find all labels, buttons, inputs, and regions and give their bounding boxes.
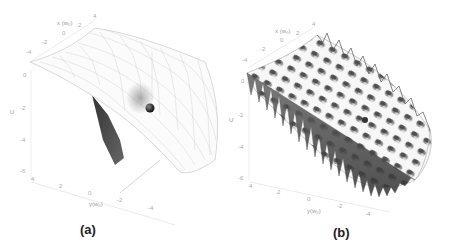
particle-ball-icon bbox=[146, 104, 155, 113]
x-axis-label: x (w₀) bbox=[57, 20, 73, 26]
u-tick: -2 bbox=[20, 105, 25, 111]
panel-caption-b: (b) bbox=[333, 226, 350, 239]
y-tick: -4 bbox=[365, 211, 370, 217]
particle-ball-icon bbox=[362, 117, 368, 123]
u-axis-label: U bbox=[229, 117, 233, 123]
u-axis-label: U bbox=[10, 109, 14, 115]
surface-plot-b bbox=[225, 0, 451, 249]
u-tick: -4 bbox=[238, 144, 243, 150]
y-tick: 0 bbox=[307, 196, 310, 202]
u-tick: -4 bbox=[20, 137, 25, 143]
u-tick: 0 bbox=[241, 78, 244, 84]
y-tick: -2 bbox=[117, 197, 122, 203]
x-tick: 2 bbox=[78, 22, 81, 28]
y-tick: 2 bbox=[277, 189, 280, 195]
u-tick: -6 bbox=[238, 175, 243, 181]
x-tick: -2 bbox=[42, 39, 47, 45]
y-tick: 4 bbox=[249, 183, 252, 189]
panel-a-smooth-potential: x (w₀) -4 -2 0 2 4 U 0 -2 -4 -6 4 2 0 -2… bbox=[0, 0, 225, 249]
y-axis-line bbox=[31, 182, 175, 225]
panel-caption-a: (a) bbox=[80, 223, 96, 236]
x-axis-label: x (w₀) bbox=[275, 28, 291, 34]
y-tick: -2 bbox=[337, 203, 342, 209]
x-tick: 0 bbox=[62, 30, 65, 36]
surface-plot-a bbox=[0, 0, 225, 249]
x-tick: -2 bbox=[260, 46, 265, 52]
x-tick: 0 bbox=[280, 37, 283, 43]
y-tick: -4 bbox=[148, 205, 153, 211]
u-tick: -6 bbox=[20, 168, 25, 174]
x-tick: 2 bbox=[296, 30, 299, 36]
panel-b-corrugated-potential: x (w₀) -4 -2 0 2 4 U 0 -2 -4 -6 4 2 0 -2… bbox=[225, 0, 450, 249]
y-axis-label: y(w₀) bbox=[89, 201, 103, 207]
y-tick: 0 bbox=[88, 190, 91, 196]
x-tick: -4 bbox=[242, 57, 247, 63]
x-tick: -4 bbox=[26, 49, 31, 55]
u-tick: -2 bbox=[238, 112, 243, 118]
x-tick: 4 bbox=[93, 13, 96, 19]
y-axis-label: y(w₀) bbox=[307, 208, 321, 214]
y-tick: 2 bbox=[59, 183, 62, 189]
u-tick: 0 bbox=[23, 72, 26, 78]
y-tick: 4 bbox=[31, 176, 34, 182]
x-tick: 4 bbox=[312, 21, 315, 27]
